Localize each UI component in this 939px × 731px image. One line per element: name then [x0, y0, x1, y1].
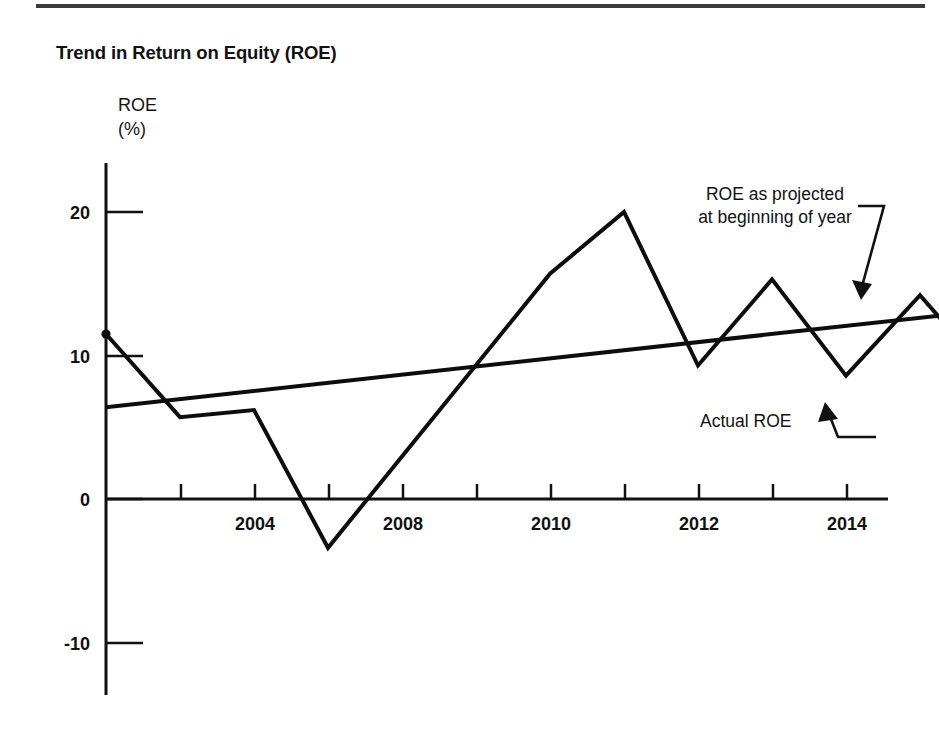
series-point-markers — [101, 305, 939, 385]
x-tick-label-2004: 2004 — [235, 514, 275, 534]
data-point-marker — [101, 329, 110, 338]
series-line-actual-roe — [106, 212, 939, 548]
x-tick-labels: 2004 2008 2010 2012 2014 — [235, 514, 867, 534]
y-tick-label-20: 20 — [70, 203, 90, 223]
series-layer — [101, 212, 939, 548]
x-axis-ticks — [181, 484, 847, 499]
annotation-arrow-projected-head — [852, 280, 872, 300]
x-tick-label-2008: 2008 — [383, 514, 423, 534]
series-line-projected-roe — [106, 310, 939, 408]
y-tick-label-10: 10 — [70, 347, 90, 367]
y-tick-label-0: 0 — [80, 490, 90, 510]
y-tick-labels: 20 10 0 -10 — [64, 203, 90, 654]
chart-canvas: 20 10 0 -10 2004 2008 2010 2012 2014 — [0, 0, 939, 731]
x-tick-label-2014: 2014 — [827, 514, 867, 534]
figure-root: Trend in Return on Equity (ROE) ROE (%) … — [0, 0, 939, 731]
annotation-label-actual-roe: Actual ROE — [700, 410, 850, 433]
x-tick-label-2010: 2010 — [531, 514, 571, 534]
y-axis-ticks — [106, 212, 143, 643]
x-tick-label-2012: 2012 — [679, 514, 719, 534]
y-tick-label-minus-10: -10 — [64, 634, 90, 654]
annotation-label-projected-roe: ROE as projected at beginning of year — [655, 183, 895, 230]
